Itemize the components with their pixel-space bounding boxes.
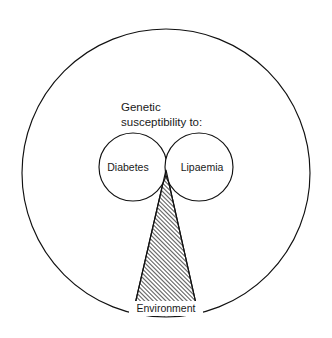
venn-diagram: Genetic susceptibility to: Diabetes Lipa…	[0, 0, 332, 338]
heading-line-1: Genetic	[121, 101, 161, 113]
figure-container: Genetic susceptibility to: Diabetes Lipa…	[0, 0, 332, 338]
diabetes-label: Diabetes	[107, 161, 148, 173]
environment-label: Environment	[137, 302, 196, 314]
heading-line-2: susceptibility to:	[121, 116, 202, 128]
lipaemia-label: Lipaemia	[181, 161, 224, 173]
